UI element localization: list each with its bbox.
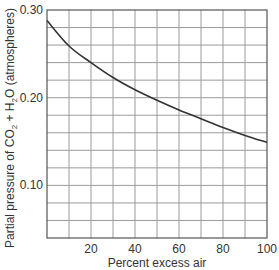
chart: 0.100.200.30 20406080100 Percent excess … — [0, 0, 279, 270]
y-tick-label: 0.20 — [20, 91, 44, 105]
y-axis-ticks: 0.100.200.30 — [20, 3, 44, 192]
y-tick-label: 0.10 — [20, 178, 44, 192]
x-tick-label: 60 — [172, 242, 186, 256]
x-axis-ticks: 20406080100 — [84, 242, 277, 256]
x-axis-label: Percent excess air — [108, 256, 207, 270]
x-tick-label: 40 — [128, 242, 142, 256]
x-tick-label: 100 — [257, 242, 277, 256]
y-axis-label: Partial pressure of CO2 + H2O (atmospher… — [3, 8, 19, 248]
x-tick-label: 80 — [216, 242, 230, 256]
x-tick-label: 20 — [84, 242, 98, 256]
grid-lines — [47, 10, 267, 238]
y-tick-label: 0.30 — [20, 3, 44, 17]
